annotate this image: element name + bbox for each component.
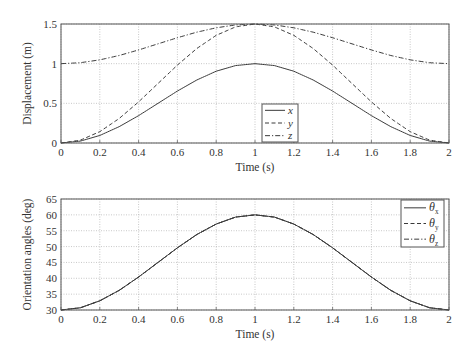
x-tick-label: 1.8 <box>403 313 417 325</box>
y-tick-label: 1 <box>52 58 58 70</box>
x-tick-label: 0.2 <box>93 313 107 325</box>
y-tick-label: 50 <box>46 241 58 253</box>
legend-label: y <box>287 117 293 129</box>
y-tick-label: 55 <box>46 225 58 237</box>
displacement-chart: 00.20.40.60.811.21.41.61.8200.511.5 Time… <box>21 18 452 174</box>
legend-label: x <box>287 104 293 116</box>
x-tick-label: 2 <box>446 146 452 158</box>
y-tick-label: 1.5 <box>43 18 57 30</box>
x-tick-label: 2 <box>446 313 452 325</box>
x-tick-label: 1.2 <box>287 313 301 325</box>
y-tick-label: 65 <box>46 193 58 205</box>
y-tick-label: 30 <box>46 304 58 316</box>
x-tick-label: 1.8 <box>403 146 417 158</box>
orientation-tick-labels: 00.20.40.60.811.21.41.61.823035404550556… <box>46 193 452 325</box>
x-tick-label: 1.2 <box>287 146 301 158</box>
x-tick-label: 0.8 <box>209 313 223 325</box>
x-tick-label: 1.4 <box>326 313 340 325</box>
x-tick-label: 1 <box>252 146 258 158</box>
x-tick-label: 0.4 <box>132 146 146 158</box>
x-tick-label: 0.4 <box>132 313 146 325</box>
x-tick-label: 0.8 <box>209 146 223 158</box>
y-tick-label: 40 <box>46 272 58 284</box>
x-tick-label: 1 <box>252 313 258 325</box>
y-tick-label: 35 <box>46 288 58 300</box>
x-tick-label: 0.6 <box>171 146 185 158</box>
x-tick-label: 0 <box>58 146 64 158</box>
displacement-grid <box>61 24 449 143</box>
x-tick-label: 1.6 <box>365 146 379 158</box>
orientation-grid <box>61 199 449 310</box>
displacement-legend: xyz <box>262 104 298 142</box>
displacement-y-axis-label: Displacement (m) <box>21 42 34 125</box>
orientation-x-axis-label: Time (s) <box>236 328 275 341</box>
x-tick-label: 0 <box>58 313 64 325</box>
displacement-x-axis-label: Time (s) <box>236 161 275 174</box>
x-tick-label: 0.6 <box>171 313 185 325</box>
y-tick-label: 45 <box>46 256 58 268</box>
y-tick-label: 0.5 <box>43 97 57 109</box>
displacement-tick-labels: 00.20.40.60.811.21.41.61.8200.511.5 <box>43 18 452 158</box>
orientation-chart: 00.20.40.60.811.21.41.61.823035404550556… <box>21 193 452 341</box>
y-tick-label: 60 <box>46 209 58 221</box>
x-tick-label: 1.6 <box>365 313 379 325</box>
orientation-y-axis-label: Orientation angles (deg) <box>21 198 34 310</box>
x-tick-label: 0.2 <box>93 146 107 158</box>
orientation-legend: θxθyθz <box>401 200 444 248</box>
legend-label: z <box>287 129 293 141</box>
y-tick-label: 0 <box>52 137 58 149</box>
figure: 00.20.40.60.811.21.41.61.8200.511.5 Time… <box>0 0 472 357</box>
x-tick-label: 1.4 <box>326 146 340 158</box>
